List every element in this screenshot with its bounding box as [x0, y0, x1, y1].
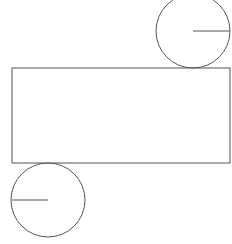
top-base-circle — [156, 0, 230, 68]
cylinder-net-diagram — [0, 0, 232, 244]
lateral-surface-rectangle — [12, 68, 230, 163]
